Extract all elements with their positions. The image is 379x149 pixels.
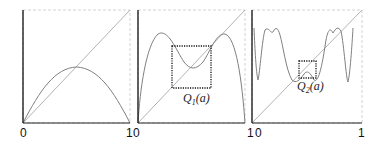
panel-3-tick-1: 1 bbox=[358, 126, 365, 140]
panel-1: 0 1 bbox=[20, 10, 133, 140]
panel-3: 0 1 Q2(a) bbox=[252, 10, 365, 140]
panel-1-tick-0: 0 bbox=[20, 126, 27, 140]
q2-label: Q2(a) bbox=[297, 79, 324, 95]
panel-1-tick-1: 1 bbox=[126, 126, 133, 140]
panel-3-tick-0: 0 bbox=[255, 126, 262, 140]
panel-1-curve bbox=[23, 67, 130, 123]
panel-3-curve bbox=[254, 28, 353, 82]
panel-2: 0 1 Q1(a) bbox=[133, 10, 254, 140]
q2-dotted-box bbox=[299, 61, 316, 78]
panel-2-tick-0: 0 bbox=[133, 126, 140, 140]
panel-2-tick-1: 1 bbox=[247, 126, 254, 140]
chart-figure: 0 1 0 1 Q1(a) 0 1 Q2(a) bbox=[0, 0, 379, 149]
q1-label: Q1(a) bbox=[183, 91, 210, 107]
